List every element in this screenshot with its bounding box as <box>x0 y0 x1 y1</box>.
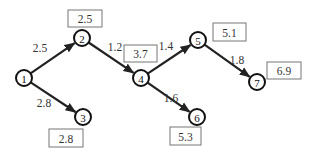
node-1: 1 <box>16 70 32 86</box>
network-diagram: 2.52.81.21.41.61.8 2.52.83.75.15.36.9 12… <box>0 0 317 157</box>
edge-weight-label: 1.8 <box>230 54 245 66</box>
node-label: 2 <box>79 33 85 45</box>
edge-weight-label: 1.4 <box>159 40 174 52</box>
node-label: 3 <box>80 112 86 124</box>
value-box-label: 5.1 <box>222 27 237 39</box>
node-6: 6 <box>189 109 205 125</box>
value-box-label: 5.3 <box>178 131 193 143</box>
node-label: 7 <box>254 77 260 89</box>
value-box-6: 5.3 <box>170 127 201 145</box>
edge-weight-label: 2.8 <box>37 97 52 109</box>
value-box-label: 6.9 <box>277 65 292 77</box>
value-box-5: 5.1 <box>213 23 246 41</box>
node-label: 4 <box>138 73 144 85</box>
value-box-4: 3.7 <box>124 45 157 62</box>
node-label: 5 <box>195 35 201 47</box>
node-2: 2 <box>74 30 90 46</box>
nodes: 1234567 <box>16 30 265 125</box>
edge-weight-label: 2.5 <box>33 42 48 54</box>
node-label: 1 <box>21 73 27 85</box>
edge-weight-label: 1.2 <box>108 41 123 53</box>
node-7: 7 <box>249 74 265 90</box>
node-4: 4 <box>133 70 149 86</box>
edge-weight-label: 1.6 <box>164 92 179 104</box>
node-3: 3 <box>75 109 91 125</box>
node-5: 5 <box>190 32 206 48</box>
value-box-2: 2.5 <box>68 10 102 27</box>
value-box-3: 2.8 <box>49 129 83 147</box>
value-box-label: 3.7 <box>133 48 148 60</box>
node-label: 6 <box>194 112 200 124</box>
value-box-label: 2.8 <box>59 133 74 145</box>
value-box-label: 2.5 <box>78 13 93 25</box>
value-box-7: 6.9 <box>267 62 301 79</box>
